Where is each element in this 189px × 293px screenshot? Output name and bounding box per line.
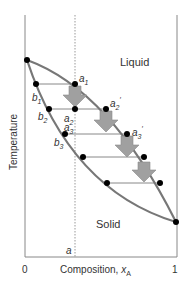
isopleth-label: a — [66, 245, 72, 256]
phase-diagram: Liquid Solid a1 a2′ a2 a3 a3′ b1 b2 b3 a… — [0, 0, 189, 293]
arrow-down-icon — [63, 86, 87, 107]
liquid-label: Liquid — [120, 56, 149, 68]
y-axis-label: Temperature — [8, 113, 19, 170]
label-b3: b3 — [54, 137, 64, 150]
label-a3-prime: a3′ — [132, 125, 143, 140]
label-a1: a1 — [79, 73, 89, 86]
x-tick-0: 0 — [22, 264, 28, 275]
arrow-down-icon — [94, 111, 118, 132]
label-a2-prime: a2′ — [110, 96, 121, 111]
label-b2: b2 — [38, 111, 48, 124]
solid-label: Solid — [96, 218, 120, 230]
x-tick-1: 1 — [172, 264, 178, 275]
x-axis-label: Composition, xA — [60, 264, 131, 277]
data-points — [24, 57, 179, 225]
